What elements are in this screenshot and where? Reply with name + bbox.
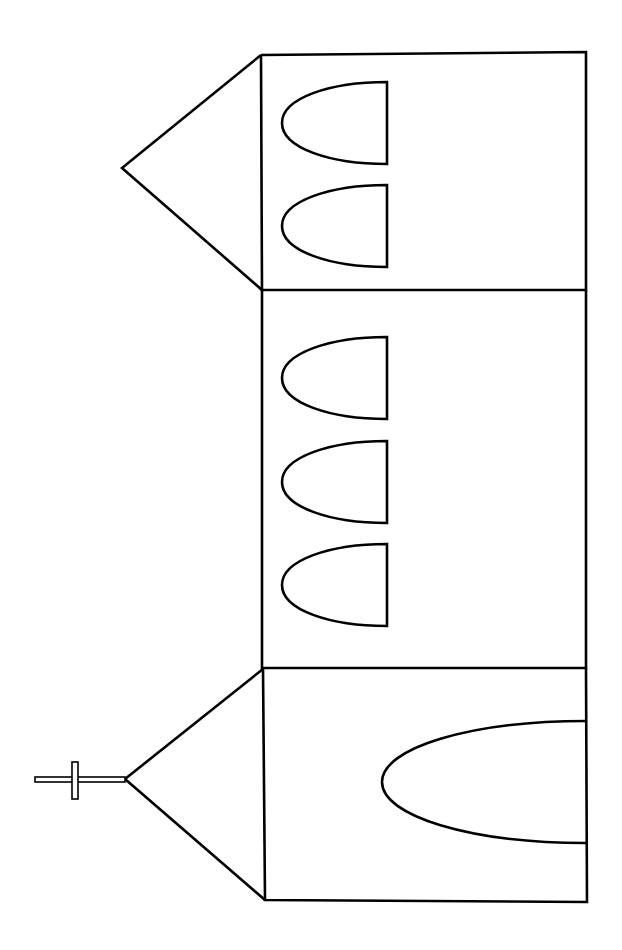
cross-icon <box>35 762 125 799</box>
tower-section <box>261 52 586 290</box>
tower-window-2 <box>282 185 387 267</box>
nave-window-3 <box>282 544 387 626</box>
front-section <box>263 668 587 902</box>
tower-roof <box>122 55 262 290</box>
nave-section <box>262 290 586 668</box>
church-drawing: church line drawing (rotated 90°) <box>0 0 622 950</box>
front-door <box>382 721 586 843</box>
nave-window-1 <box>282 337 387 419</box>
tower-window-1 <box>282 82 387 164</box>
nave-window-2 <box>282 441 387 523</box>
front-gable-roof <box>125 669 265 900</box>
